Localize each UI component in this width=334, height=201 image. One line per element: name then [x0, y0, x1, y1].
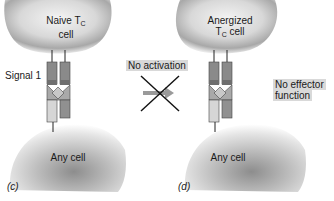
cell-name-line2: cell: [58, 29, 73, 40]
any-cell-label-d: Any cell: [198, 152, 258, 163]
cell-name-main: Naive T: [46, 15, 80, 26]
any-cell-label-c: Any cell: [38, 152, 98, 163]
cell-name-line2: cell: [227, 26, 245, 37]
no-effector-function-label: No effector function: [273, 79, 326, 101]
no-activation-label: No activation: [126, 60, 188, 71]
signal-1-label: Signal 1: [5, 70, 41, 81]
outcome-line1: No effector: [273, 79, 326, 90]
tcr-mhc-complex-d: [209, 50, 232, 132]
tcr-mhc-complex-c: [47, 50, 70, 132]
outcome-line2: function: [273, 90, 312, 101]
panel-label-d: (d): [178, 181, 190, 192]
cell-name-subscript: C: [81, 20, 86, 27]
anergized-tc-cell-label: Anergized TC cell: [200, 15, 260, 40]
cell-name-line1: Anergized: [207, 15, 252, 26]
naive-tc-cell-label: Naive TC cell: [36, 15, 96, 40]
transition: [141, 76, 179, 111]
panel-label-c: (c): [7, 181, 19, 192]
